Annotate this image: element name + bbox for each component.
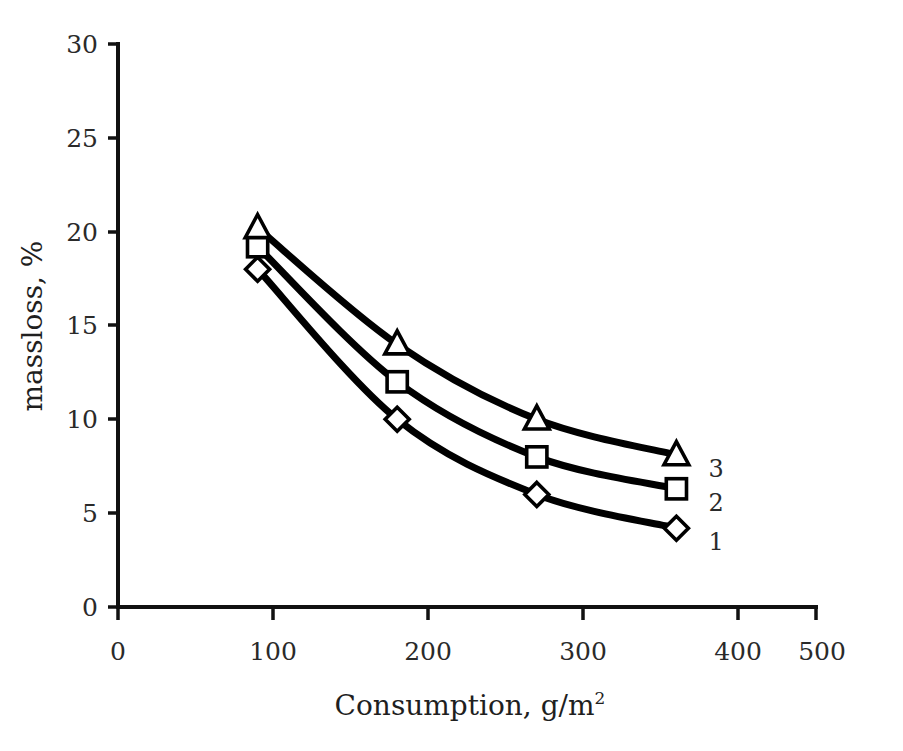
x-tick-label-300: 300: [559, 637, 607, 666]
x-axis-title: Consumption, g/m2: [335, 688, 606, 722]
data-point-marker-square: [387, 372, 407, 392]
data-point-marker-diamond: [664, 516, 688, 540]
chart-figure: 0 5 10 15 20 25 30 0 100 200 300 400 500: [0, 0, 903, 751]
data-curves-layer: [258, 228, 677, 528]
y-tick-label-25: 25: [66, 124, 98, 153]
data-point-marker-square: [666, 479, 686, 499]
data-point-marker-triangle: [245, 215, 270, 238]
series-end-label-2: 2: [708, 489, 723, 517]
x-axis-title-base: Consumption, g/m: [335, 689, 595, 722]
x-tick-label-0: 0: [110, 637, 126, 666]
data-point-marker-diamond: [525, 482, 549, 506]
data-markers-layer: [245, 215, 689, 541]
x-tick-label-400: 400: [714, 637, 762, 666]
y-tick-label-5: 5: [82, 499, 98, 528]
y-tick-label-20: 20: [66, 218, 98, 247]
y-tick-label-30: 30: [66, 30, 98, 59]
x-tick-label-500: 500: [798, 637, 846, 666]
y-tick-labels: 0 5 10 15 20 25 30: [66, 30, 98, 622]
y-tick-label-10: 10: [66, 405, 98, 434]
y-axis-title: massloss, %: [16, 241, 49, 412]
x-tick-label-200: 200: [404, 637, 452, 666]
data-point-marker-square: [527, 447, 547, 467]
y-tick-label-15: 15: [66, 311, 98, 340]
series-end-label-3: 3: [708, 455, 723, 483]
series-end-labels-layer: 123: [708, 455, 723, 556]
y-tick-label-0: 0: [82, 593, 98, 622]
x-tick-labels: 0 100 200 300 400 500: [110, 637, 846, 666]
chart-plot-area: 0 5 10 15 20 25 30 0 100 200 300 400 500: [0, 0, 903, 751]
data-point-marker-square: [248, 237, 268, 257]
x-axis-title-exponent: 2: [595, 688, 606, 708]
x-tick-label-100: 100: [249, 637, 297, 666]
series-end-label-1: 1: [708, 528, 723, 556]
axes-group: [118, 44, 816, 607]
